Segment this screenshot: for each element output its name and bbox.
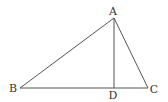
label-c: C: [150, 83, 158, 96]
segment-ab: [20, 18, 114, 88]
triangle-diagram: A B C D: [0, 0, 168, 102]
segment-ac: [114, 18, 148, 88]
label-b: B: [9, 82, 17, 95]
label-d: D: [109, 89, 118, 102]
label-a: A: [108, 5, 118, 18]
